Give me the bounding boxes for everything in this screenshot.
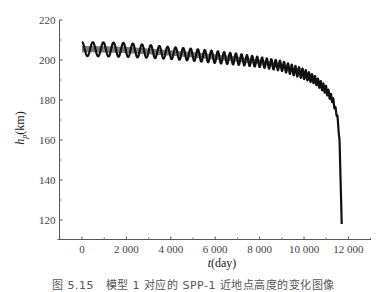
perigee-height-line	[82, 42, 342, 224]
figure-caption: 图 5.15 模型 1 对应的 SPP-1 近地点高度的变化图像	[0, 276, 387, 292]
y-axis-title: hp(km)	[13, 111, 29, 144]
x-tick-label: 12 000	[333, 243, 364, 255]
x-tick-label: 2 000	[114, 243, 139, 255]
y-tick-label: 200	[39, 54, 56, 66]
y-tick-label: 140	[39, 174, 56, 186]
data-series-perigee-height	[82, 42, 342, 224]
y-tick-label: 120	[39, 214, 56, 226]
y-tick-label: 220	[39, 14, 56, 26]
y-tick-label: 180	[39, 94, 56, 106]
x-tick-label: 6 000	[203, 243, 228, 255]
x-tick-label: 0	[79, 243, 85, 255]
y-axis-ticks: 120140160180200220	[39, 14, 63, 226]
perigee-height-band	[82, 46, 342, 224]
axes	[58, 20, 372, 240]
x-tick-label: 8 000	[247, 243, 272, 255]
y-tick-label: 160	[39, 134, 56, 146]
x-tick-label: 4 000	[158, 243, 183, 255]
x-axis-title: t(day)	[208, 256, 237, 270]
x-tick-label: 10 000	[289, 243, 320, 255]
